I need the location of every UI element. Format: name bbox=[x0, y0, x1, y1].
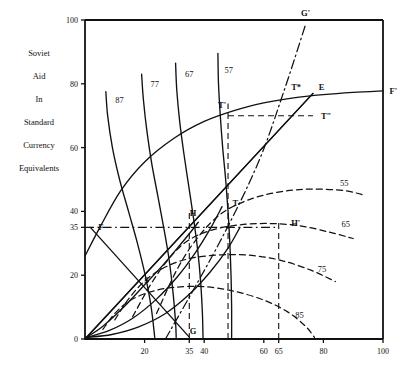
x-tick-label: 20 bbox=[141, 347, 149, 356]
y-tick-label: 40 bbox=[70, 207, 78, 216]
point-label-G: G bbox=[190, 326, 197, 336]
y-axis-title-line: Aid bbox=[0, 65, 78, 88]
curve-label-57: 57 bbox=[224, 65, 233, 75]
series-curve-77 bbox=[142, 74, 177, 337]
point-label-Gp: G' bbox=[301, 8, 310, 18]
point-label-S: S bbox=[144, 275, 149, 285]
y-tick-label: 20 bbox=[70, 271, 78, 280]
y-axis-title: SovietAidInStandardCurrencyEquivalents bbox=[0, 42, 78, 180]
y-axis-title-line: Standard bbox=[0, 111, 78, 134]
point-label-Hp: H' bbox=[291, 218, 300, 228]
figure-container: SovietAidInStandardCurrencyEquivalents 2… bbox=[0, 0, 412, 370]
y-axis-title-line: Equivalents bbox=[0, 157, 78, 180]
curve-label-67: 67 bbox=[185, 69, 194, 79]
x-tick-label: 100 bbox=[377, 347, 389, 356]
point-label-Tp: T' bbox=[218, 100, 226, 110]
curve-label-75: 75 bbox=[318, 264, 327, 274]
series-curve-FG-line bbox=[90, 227, 189, 337]
curve-label-65: 65 bbox=[342, 219, 351, 229]
series-curve-SH-line bbox=[85, 93, 313, 339]
point-label-F: F bbox=[98, 222, 103, 232]
y-axis-title-line: Soviet bbox=[0, 42, 78, 65]
curve-label-87: 87 bbox=[115, 95, 124, 105]
curve-label-77: 77 bbox=[150, 79, 159, 89]
point-label-H: H bbox=[190, 208, 197, 218]
x-tick-label: 40 bbox=[200, 347, 208, 356]
curve-label-55: 55 bbox=[340, 178, 349, 188]
point-label-T: T bbox=[232, 198, 238, 208]
y-axis-title-line: In bbox=[0, 88, 78, 111]
curve-label-85: 85 bbox=[295, 310, 304, 320]
point-label-Fp: F' bbox=[389, 86, 397, 96]
y-tick-label: 0 bbox=[74, 335, 78, 344]
series-curve-57 bbox=[218, 54, 232, 338]
y-tick-label: 100 bbox=[66, 16, 78, 25]
point-label-T*: T* bbox=[291, 82, 301, 92]
x-tick-label: 35 bbox=[185, 347, 193, 356]
y-axis-title-line: Currency bbox=[0, 134, 78, 157]
point-label-Tp: T" bbox=[321, 111, 331, 121]
x-tick-label: 80 bbox=[319, 347, 327, 356]
x-tick-label: 65 bbox=[275, 347, 283, 356]
x-tick-label: 60 bbox=[260, 347, 268, 356]
point-label-E: E bbox=[319, 82, 325, 92]
series-curve-lower-solid-arc-2 bbox=[86, 207, 222, 338]
y-tick-label: 35 bbox=[70, 223, 78, 232]
